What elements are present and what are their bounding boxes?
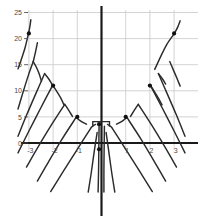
y-tick-label: 15	[14, 61, 22, 68]
y-tick-label: 5	[18, 114, 22, 121]
curve-path	[104, 126, 105, 192]
y-tick-label: 10	[14, 87, 22, 94]
y-tick-label: 0	[18, 140, 22, 147]
plot-canvas: 0510152025 -3-2-1123	[0, 0, 202, 222]
y-tick-label: 20	[14, 35, 22, 42]
data-point-marker	[97, 122, 101, 126]
data-point-marker	[51, 83, 55, 87]
y-tick-label: 25	[14, 9, 22, 16]
x-tick-label: 3	[174, 147, 178, 154]
curve-path	[98, 126, 99, 192]
data-point-marker	[97, 147, 101, 151]
x-tick-label: 1	[125, 147, 129, 154]
x-tick-label: -2	[51, 147, 57, 154]
data-point-marker	[27, 31, 31, 35]
x-tick-label: 2	[149, 147, 153, 154]
data-point-marker	[124, 115, 128, 119]
x-tick-label: -1	[76, 147, 82, 154]
data-point-marker	[75, 115, 79, 119]
plot-figure: 0510152025 -3-2-1123	[0, 0, 202, 222]
x-tick-label: -3	[27, 147, 33, 154]
data-point-marker	[148, 83, 152, 87]
data-point-marker	[172, 31, 176, 35]
